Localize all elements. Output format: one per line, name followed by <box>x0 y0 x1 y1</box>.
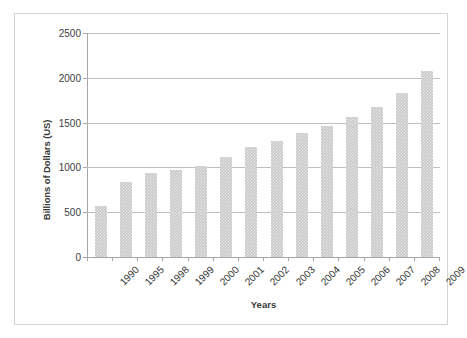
bar-slot <box>214 33 239 257</box>
y-axis-tick-mark <box>83 123 87 124</box>
x-axis-tick-mark <box>288 257 289 261</box>
bar[interactable] <box>296 133 308 257</box>
y-axis-title: Billions of Dollars (US) <box>37 14 55 326</box>
bar-slot <box>415 33 440 257</box>
x-axis-tick-mark <box>439 257 440 261</box>
bar-slot <box>264 33 289 257</box>
bar-slot <box>88 33 113 257</box>
x-axis-tick-mark <box>188 257 189 261</box>
x-axis-tick-mark <box>389 257 390 261</box>
y-axis-tick-mark <box>83 33 87 34</box>
x-axis-tick-label: 2003 <box>293 264 317 288</box>
x-axis-tick-mark <box>238 257 239 261</box>
x-axis-title: Years <box>87 299 440 310</box>
bar-slot <box>189 33 214 257</box>
plot-area: 05001000150020002500 1990199519981999200… <box>87 33 440 257</box>
bar[interactable] <box>220 157 232 257</box>
bar-slot <box>239 33 264 257</box>
x-axis-tick-label: 2004 <box>318 264 342 288</box>
x-axis-tick-label: 2001 <box>243 264 267 288</box>
bar[interactable] <box>245 147 257 257</box>
y-axis-tick-mark <box>83 167 87 168</box>
bar[interactable] <box>271 141 283 257</box>
x-axis-tick-label: 1998 <box>167 264 191 288</box>
bar[interactable] <box>346 117 358 257</box>
x-axis-tick-label: 2000 <box>218 264 242 288</box>
x-axis-tick-mark <box>162 257 163 261</box>
bar-slot <box>390 33 415 257</box>
x-axis-tick-mark <box>112 257 113 261</box>
chart-frame: Billions of Dollars (US) 050010001500200… <box>14 13 448 325</box>
x-axis-tick-mark <box>213 257 214 261</box>
bar-slot <box>163 33 188 257</box>
bar-slot <box>365 33 390 257</box>
x-axis-tick-label: 1990 <box>117 264 141 288</box>
x-axis-tick-mark <box>313 257 314 261</box>
x-axis-tick-label: 2005 <box>343 264 367 288</box>
bar[interactable] <box>396 93 408 257</box>
x-axis-tick-label: 2002 <box>268 264 292 288</box>
y-axis-tick-mark <box>83 78 87 79</box>
y-axis-tick-label: 0 <box>75 252 81 263</box>
bar[interactable] <box>321 126 333 257</box>
y-axis-tick-label: 500 <box>64 207 81 218</box>
x-axis-tick-label: 2007 <box>394 264 418 288</box>
x-axis-tick-mark <box>364 257 365 261</box>
x-axis-tick-mark <box>87 257 88 261</box>
y-axis-tick-label: 2000 <box>59 72 81 83</box>
x-axis-tick-label: 1995 <box>142 264 166 288</box>
y-axis-tick-label: 1000 <box>59 162 81 173</box>
bar[interactable] <box>120 182 132 257</box>
bars-layer <box>88 33 440 257</box>
bar-slot <box>138 33 163 257</box>
y-axis-tick-mark <box>83 212 87 213</box>
y-axis-tick-label: 1500 <box>59 117 81 128</box>
x-axis-tick-label: 1999 <box>193 264 217 288</box>
bar[interactable] <box>170 170 182 257</box>
bar[interactable] <box>95 206 107 257</box>
bar[interactable] <box>145 173 157 257</box>
bar[interactable] <box>195 166 207 257</box>
bar-slot <box>314 33 339 257</box>
x-axis-tick-label: 2008 <box>419 264 443 288</box>
x-axis-tick-mark <box>414 257 415 261</box>
bar[interactable] <box>371 107 383 257</box>
x-axis-tick-mark <box>338 257 339 261</box>
x-axis-tick-label: 2006 <box>369 264 393 288</box>
x-axis-tick-mark <box>137 257 138 261</box>
x-axis-tick-label: 2009 <box>444 264 467 288</box>
bar-slot <box>339 33 364 257</box>
bar-slot <box>113 33 138 257</box>
x-axis-tick-mark <box>263 257 264 261</box>
y-axis-tick-label: 2500 <box>59 28 81 39</box>
bar-slot <box>289 33 314 257</box>
bar[interactable] <box>421 71 433 257</box>
